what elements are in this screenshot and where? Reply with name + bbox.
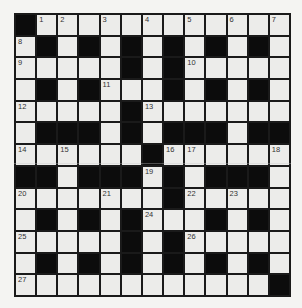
crossword-cell[interactable] <box>185 167 204 187</box>
crossword-cell[interactable] <box>164 15 183 35</box>
crossword-cell[interactable] <box>143 275 162 295</box>
crossword-cell[interactable]: 19 <box>143 167 162 187</box>
crossword-cell[interactable] <box>228 80 247 100</box>
crossword-cell[interactable] <box>270 37 289 57</box>
crossword-cell[interactable] <box>249 58 268 78</box>
crossword-cell[interactable] <box>228 37 247 57</box>
crossword-cell[interactable]: 25 <box>16 232 35 252</box>
crossword-cell[interactable]: 24 <box>143 210 162 230</box>
crossword-cell[interactable] <box>185 37 204 57</box>
crossword-cell[interactable]: 12 <box>16 102 35 122</box>
crossword-cell[interactable] <box>249 232 268 252</box>
crossword-cell[interactable] <box>101 58 120 78</box>
crossword-cell[interactable] <box>79 102 98 122</box>
crossword-cell[interactable]: 2 <box>58 15 77 35</box>
crossword-cell[interactable] <box>101 37 120 57</box>
crossword-cell[interactable] <box>270 80 289 100</box>
crossword-cell[interactable] <box>206 58 225 78</box>
crossword-cell[interactable] <box>101 254 120 274</box>
crossword-cell[interactable]: 16 <box>164 145 183 165</box>
crossword-cell[interactable] <box>37 145 56 165</box>
crossword-cell[interactable] <box>228 58 247 78</box>
crossword-cell[interactable] <box>206 145 225 165</box>
crossword-cell[interactable] <box>122 80 141 100</box>
crossword-cell[interactable] <box>249 15 268 35</box>
crossword-cell[interactable] <box>37 189 56 209</box>
crossword-cell[interactable] <box>185 210 204 230</box>
crossword-cell[interactable]: 22 <box>185 189 204 209</box>
crossword-cell[interactable] <box>185 102 204 122</box>
crossword-cell[interactable] <box>143 254 162 274</box>
crossword-cell[interactable] <box>270 189 289 209</box>
crossword-cell[interactable] <box>185 80 204 100</box>
crossword-cell[interactable] <box>164 275 183 295</box>
crossword-cell[interactable]: 10 <box>185 58 204 78</box>
crossword-cell[interactable] <box>206 189 225 209</box>
crossword-cell[interactable] <box>122 189 141 209</box>
crossword-cell[interactable] <box>206 102 225 122</box>
crossword-cell[interactable] <box>101 145 120 165</box>
crossword-cell[interactable] <box>228 254 247 274</box>
crossword-cell[interactable] <box>37 58 56 78</box>
crossword-cell[interactable] <box>228 102 247 122</box>
crossword-cell[interactable] <box>270 210 289 230</box>
crossword-cell[interactable] <box>79 15 98 35</box>
crossword-cell[interactable]: 23 <box>228 189 247 209</box>
crossword-cell[interactable]: 5 <box>185 15 204 35</box>
crossword-cell[interactable] <box>228 275 247 295</box>
crossword-cell[interactable] <box>101 275 120 295</box>
crossword-cell[interactable]: 8 <box>16 37 35 57</box>
crossword-cell[interactable] <box>185 254 204 274</box>
crossword-cell[interactable] <box>58 80 77 100</box>
crossword-cell[interactable] <box>143 37 162 57</box>
crossword-cell[interactable]: 17 <box>185 145 204 165</box>
crossword-cell[interactable] <box>37 102 56 122</box>
crossword-cell[interactable] <box>249 189 268 209</box>
crossword-cell[interactable] <box>58 58 77 78</box>
crossword-cell[interactable] <box>270 58 289 78</box>
crossword-cell[interactable]: 3 <box>101 15 120 35</box>
crossword-cell[interactable] <box>16 210 35 230</box>
crossword-cell[interactable] <box>122 275 141 295</box>
crossword-cell[interactable] <box>143 189 162 209</box>
crossword-cell[interactable] <box>164 210 183 230</box>
crossword-cell[interactable]: 4 <box>143 15 162 35</box>
crossword-cell[interactable] <box>228 145 247 165</box>
crossword-cell[interactable]: 15 <box>58 145 77 165</box>
crossword-cell[interactable]: 6 <box>228 15 247 35</box>
crossword-cell[interactable] <box>79 232 98 252</box>
crossword-cell[interactable] <box>122 15 141 35</box>
crossword-cell[interactable] <box>270 167 289 187</box>
crossword-cell[interactable]: 21 <box>101 189 120 209</box>
crossword-cell[interactable] <box>249 102 268 122</box>
crossword-cell[interactable] <box>143 232 162 252</box>
crossword-cell[interactable] <box>143 123 162 143</box>
crossword-cell[interactable] <box>270 254 289 274</box>
crossword-cell[interactable]: 13 <box>143 102 162 122</box>
crossword-cell[interactable] <box>37 232 56 252</box>
crossword-cell[interactable]: 27 <box>16 275 35 295</box>
crossword-cell[interactable] <box>58 275 77 295</box>
crossword-cell[interactable] <box>228 232 247 252</box>
crossword-cell[interactable] <box>206 275 225 295</box>
crossword-cell[interactable]: 9 <box>16 58 35 78</box>
crossword-cell[interactable] <box>79 145 98 165</box>
crossword-cell[interactable] <box>143 58 162 78</box>
crossword-cell[interactable] <box>79 189 98 209</box>
crossword-cell[interactable]: 18 <box>270 145 289 165</box>
crossword-cell[interactable] <box>16 254 35 274</box>
crossword-cell[interactable] <box>37 275 56 295</box>
crossword-cell[interactable] <box>143 80 162 100</box>
crossword-cell[interactable]: 26 <box>185 232 204 252</box>
crossword-cell[interactable] <box>122 145 141 165</box>
crossword-cell[interactable]: 11 <box>101 80 120 100</box>
crossword-cell[interactable] <box>101 232 120 252</box>
crossword-cell[interactable] <box>58 232 77 252</box>
crossword-cell[interactable] <box>58 254 77 274</box>
crossword-cell[interactable] <box>79 275 98 295</box>
crossword-cell[interactable] <box>164 102 183 122</box>
crossword-cell[interactable]: 14 <box>16 145 35 165</box>
crossword-cell[interactable] <box>16 123 35 143</box>
crossword-cell[interactable] <box>206 15 225 35</box>
crossword-cell[interactable] <box>270 232 289 252</box>
